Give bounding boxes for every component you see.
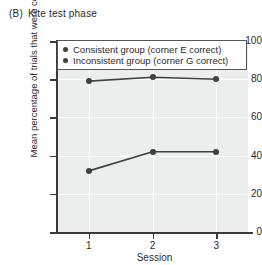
legend: Consistent group (corner E correct) Inco… — [57, 40, 247, 70]
page-title: (B)Kite test phase — [9, 8, 97, 19]
x-axis-tick-label: 1 — [77, 240, 101, 251]
y-axis-tick — [50, 41, 57, 43]
legend-item-inconsistent: Inconsistent group (corner G correct) — [63, 55, 242, 66]
y-axis-label: Mean percentage of trials that were corr… — [28, 0, 39, 158]
y-axis-tick — [50, 156, 57, 158]
y-axis-tick — [50, 194, 57, 196]
x-axis-tick — [216, 233, 218, 239]
legend-item-label: Consistent group (corner E correct) — [73, 44, 221, 55]
legend-item-consistent: Consistent group (corner E correct) — [63, 44, 242, 55]
y-axis-tick — [50, 232, 57, 234]
y-axis-tick — [50, 79, 57, 81]
panel-tag: (B) — [9, 8, 23, 19]
x-axis-tick-label: 2 — [141, 240, 165, 251]
y-axis-tick — [50, 117, 57, 119]
x-axis-tick — [89, 233, 91, 239]
legend-marker-icon — [63, 58, 68, 63]
x-axis-tick — [153, 233, 155, 239]
x-axis-tick-label: 3 — [204, 240, 228, 251]
y-axis-tick-label: 80 — [216, 73, 262, 84]
y-axis-tick-label: 20 — [216, 188, 262, 199]
legend-item-label: Inconsistent group (corner G correct) — [73, 55, 228, 66]
y-axis-tick-label: 60 — [216, 111, 262, 122]
y-axis-tick-label: 0 — [216, 226, 262, 237]
legend-marker-icon — [63, 47, 68, 52]
x-axis-label: Session — [56, 252, 253, 263]
chart-figure: (B)Kite test phase Mean percentage of tr… — [0, 0, 262, 265]
y-axis-tick-label: 40 — [216, 150, 262, 161]
